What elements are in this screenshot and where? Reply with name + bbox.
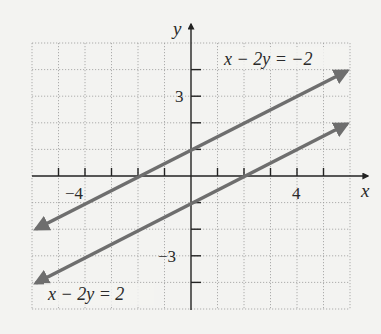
line2-equation-label: x − 2y = 2 — [47, 284, 124, 304]
y-axis-label: y — [171, 18, 182, 39]
y-tick-label-3: 3 — [175, 87, 184, 106]
x-axis-label: x — [360, 180, 370, 201]
x-tick-label-4: 4 — [292, 184, 301, 203]
coordinate-plane: y x −4 4 3 −3 x − 2y = −2 x − 2y = 2 — [0, 0, 381, 334]
y-tick-label-neg3: −3 — [158, 247, 176, 266]
x-tick-label-neg4: −4 — [65, 184, 84, 203]
line1-equation-label: x − 2y = −2 — [223, 49, 312, 69]
